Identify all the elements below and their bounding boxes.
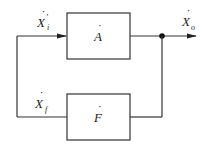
feedback-subscript: f [45,105,49,114]
output-path [130,33,196,39]
block-a-dot: · [98,19,101,31]
output-signal-label: X · o [181,4,195,32]
output-symbol: X [181,14,191,29]
feedback-symbol: X [34,96,44,111]
input-dot: · [42,5,45,17]
input-subscript: i [47,23,49,32]
feedback-signal-label: X · f [34,86,49,114]
feedback-diagram: A · F · X · ′ i X · f X · o [0,0,206,151]
input-signal-label: X · ′ i [36,5,49,32]
block-f-label: F [93,110,103,125]
feedback-block-f: F · [67,94,130,140]
output-subscript: o [191,23,195,32]
input-symbol: X [36,15,46,30]
forward-block-a: A · [67,13,130,59]
block-f-dot: · [98,100,101,112]
output-dot: · [187,4,190,16]
feedback-dot: · [40,86,43,98]
input-prime: ′ [46,12,49,22]
block-a-label: A [93,29,102,44]
